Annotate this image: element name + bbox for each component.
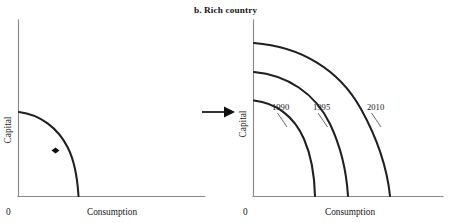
curve-label-1990: 1990 [272, 102, 289, 112]
left-frontier-curve [19, 112, 79, 196]
left-panel: Capital Consumption 0 [3, 20, 205, 217]
figure-container: b. Rich country Capital Consumption 0 [0, 0, 451, 223]
transition-arrow-icon [202, 107, 235, 118]
left-y-axis-label: Capital [3, 116, 13, 143]
right-x-axis-label: Consumption [325, 207, 375, 217]
left-current-point-marker [52, 148, 60, 154]
right-frontier-curve-1990 [254, 101, 315, 197]
right-panel: 1990 1995 2010 Capital Consumption 0 [238, 20, 443, 217]
curve-label-1995: 1995 [313, 102, 330, 112]
figure-title: b. Rich country [194, 5, 258, 15]
leader-line-1990 [278, 113, 288, 127]
right-y-axis-label: Capital [238, 110, 248, 137]
arrow-head [224, 107, 235, 118]
curve-label-2010: 2010 [367, 102, 384, 112]
left-origin-label: 0 [6, 207, 11, 217]
right-origin-label: 0 [243, 207, 248, 217]
left-x-axis-label: Consumption [87, 207, 137, 217]
leader-line-2010 [372, 113, 382, 127]
economics-figure: b. Rich country Capital Consumption 0 [0, 0, 451, 223]
